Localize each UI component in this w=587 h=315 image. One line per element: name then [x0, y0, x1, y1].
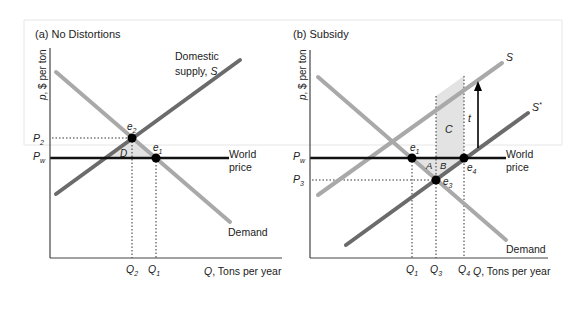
world-price-label-line2: price	[506, 161, 529, 173]
subsidized-supply-label: S*	[532, 101, 542, 113]
equilibrium-point-e3	[432, 176, 441, 185]
demand-label: Demand	[228, 226, 268, 238]
area-label-d: D	[120, 148, 127, 159]
subsidy-cost-area-c	[436, 76, 464, 158]
price-tick-p2: P2	[33, 132, 44, 146]
price-tick-pw: Pw	[293, 150, 306, 164]
equilibrium-point-e2	[128, 134, 137, 143]
quantity-tick-q2: Q2	[126, 263, 138, 277]
panel-no-distortions: (a) No Distortions p, $ per ton Q, Tons …	[24, 20, 288, 277]
demand-label: Demand	[506, 243, 546, 255]
price-tick-p3: P3	[293, 173, 304, 187]
world-price-label-line1: World	[506, 148, 533, 160]
area-label-b: B	[440, 160, 447, 171]
x-axis-label: Q, Tons per year	[473, 265, 551, 277]
quantity-tick-q3: Q3	[430, 263, 442, 277]
supply-label-s: S	[506, 51, 513, 63]
demand-curve	[56, 72, 230, 222]
area-label-c: C	[445, 123, 453, 135]
point-label-e1: e1	[153, 142, 163, 155]
point-label-e4: e4	[467, 162, 477, 175]
x-axis-label: Q, Tons per year	[204, 265, 282, 277]
panel-title: (a) No Distortions	[35, 28, 121, 40]
world-price-label-line1: World	[229, 148, 256, 160]
y-axis-label: p, $ per ton	[297, 49, 308, 101]
point-label-e1: e1	[410, 142, 420, 155]
world-price-label-line2: price	[229, 161, 252, 173]
supply-curve-s	[318, 63, 502, 195]
quantity-tick-q1: Q1	[148, 263, 160, 277]
supply-curve	[56, 60, 240, 194]
quantity-tick-q4: Q4	[458, 263, 470, 277]
supply-label-line1: Domestic	[175, 50, 219, 62]
area-label-a: A	[425, 160, 432, 171]
price-tick-pw: Pw	[33, 150, 46, 164]
economics-figure: (a) No Distortions p, $ per ton Q, Tons …	[0, 0, 587, 315]
y-axis-label: p, $ per ton	[37, 49, 48, 101]
quantity-tick-q1: Q1	[406, 263, 418, 277]
subsidy-label-t: t	[468, 112, 472, 124]
panel-title: (b) Subsidy	[293, 28, 349, 40]
supply-label-line2: supply, S	[175, 65, 217, 77]
panel-subsidy: (b) Subsidy t p, $ per ton Q, Tons per y…	[288, 20, 562, 277]
